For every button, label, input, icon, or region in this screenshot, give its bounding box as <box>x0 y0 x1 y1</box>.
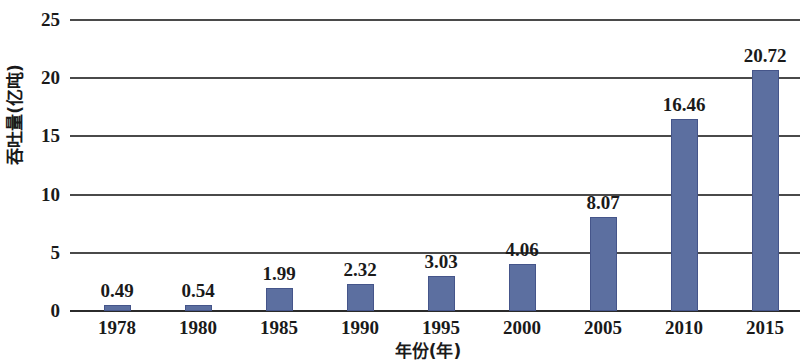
y-axis-tick-labels: 0510152025 <box>8 0 60 361</box>
bar-value-label: 2.32 <box>320 260 400 279</box>
x-axis-tick-label: 2005 <box>563 318 643 337</box>
x-axis-tick-label: 2015 <box>725 318 805 337</box>
bar <box>752 70 779 311</box>
bar-value-label: 16.46 <box>644 95 724 114</box>
y-axis-tick-label: 5 <box>20 243 60 262</box>
bar-value-label: 20.72 <box>725 46 805 65</box>
bar <box>104 305 131 311</box>
gridline <box>70 19 800 21</box>
x-axis-tick-label: 2000 <box>482 318 562 337</box>
x-axis-tick-label: 1978 <box>77 318 157 337</box>
bar <box>590 217 617 311</box>
bar <box>185 305 212 311</box>
bar-chart: 吞吐量(亿吨) 0510152025 0.4919780.5419801.991… <box>0 0 810 361</box>
bar-value-label: 0.49 <box>77 281 157 300</box>
x-axis-tick-label: 1980 <box>158 318 238 337</box>
bar <box>509 264 536 311</box>
bar-value-label: 4.06 <box>482 240 562 259</box>
y-axis-tick-label: 15 <box>20 126 60 145</box>
x-axis-title-text: 年份(年) <box>349 341 462 361</box>
x-axis-tick-label: 1995 <box>401 318 481 337</box>
gridline <box>70 77 800 79</box>
x-axis-tick-label: 1990 <box>320 318 400 337</box>
y-axis-tick-label: 25 <box>20 10 60 29</box>
plot-area: 0.4919780.5419801.9919852.3219903.031995… <box>70 0 800 361</box>
y-axis-tick-label: 20 <box>20 68 60 87</box>
bar <box>671 119 698 311</box>
bar <box>428 276 455 311</box>
bar-value-label: 3.03 <box>401 252 481 271</box>
bar-value-label: 8.07 <box>563 193 643 212</box>
bar <box>266 288 293 311</box>
y-axis-tick-label: 0 <box>20 301 60 320</box>
bar <box>347 284 374 311</box>
bar-value-label: 1.99 <box>239 264 319 283</box>
x-axis-title: 年份(年) <box>0 337 810 361</box>
x-axis-tick-label: 1985 <box>239 318 319 337</box>
y-axis-tick-label: 10 <box>20 185 60 204</box>
bar-value-label: 0.54 <box>158 281 238 300</box>
x-axis-tick-label: 2010 <box>644 318 724 337</box>
